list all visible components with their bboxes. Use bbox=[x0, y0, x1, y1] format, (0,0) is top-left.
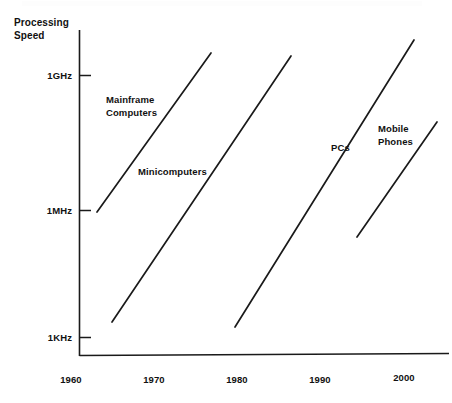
series-label-mobile-phones: Mobile Phones bbox=[378, 123, 413, 148]
series-label-pcs: PCs bbox=[331, 142, 350, 155]
series-label-mainframe-computers: Mainframe Computers bbox=[106, 94, 157, 119]
x-tick-label-2: 1980 bbox=[215, 374, 259, 385]
series-label-minicomputers: Minicomputers bbox=[138, 166, 207, 179]
x-tick-label-3: 1990 bbox=[298, 374, 342, 385]
series-line-mainframe-computers bbox=[97, 53, 211, 212]
x-tick-label-4: 2000 bbox=[382, 372, 426, 383]
chart-figure: Processing Speed 1GHz 1MHz 1KHz 1960 197… bbox=[0, 0, 452, 403]
y-tick-label-0: 1GHz bbox=[22, 70, 72, 81]
x-tick-label-1: 1970 bbox=[132, 374, 176, 385]
y-tick-label-2: 1KHz bbox=[22, 332, 72, 343]
series-line-pcs bbox=[235, 40, 414, 327]
x-tick-label-0: 1960 bbox=[49, 374, 93, 385]
x-axis-line bbox=[80, 354, 450, 356]
y-tick-label-1: 1MHz bbox=[22, 205, 72, 216]
